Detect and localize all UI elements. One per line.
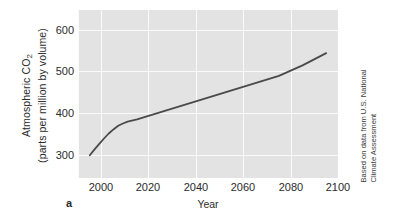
y-axis-title-line-1: Atmospheric CO (20, 58, 32, 136)
x-axis-tick-labels: 2000 2020 2040 2060 2080 2100 (78, 181, 338, 195)
y-tick-300: 300 (44, 150, 74, 161)
y-axis-title-subscript: 2 (25, 54, 34, 59)
x-axis-title: Year (78, 198, 338, 210)
plot-area (78, 10, 338, 178)
source-credit: Based on data from U.S. National Climate… (352, 46, 386, 206)
x-tick-2080: 2080 (268, 181, 314, 193)
x-tick-2000: 2000 (78, 181, 124, 193)
source-credit-line-2: Climate Assessment (369, 69, 379, 182)
x-tick-2020: 2020 (125, 181, 171, 193)
x-tick-2060: 2060 (220, 181, 266, 193)
y-tick-500: 500 (44, 66, 74, 77)
source-credit-line-1: Based on data from U.S. National (359, 69, 369, 182)
y-tick-400: 400 (44, 108, 74, 119)
x-tick-2040: 2040 (173, 181, 219, 193)
figure-panel-a: Atmospheric CO2 (parts per million by vo… (0, 0, 404, 222)
y-tick-600: 600 (44, 25, 74, 36)
co2-series-line (78, 10, 338, 178)
y-axis-tick-labels: 300 400 500 600 (44, 0, 74, 222)
panel-letter: a (66, 197, 72, 209)
